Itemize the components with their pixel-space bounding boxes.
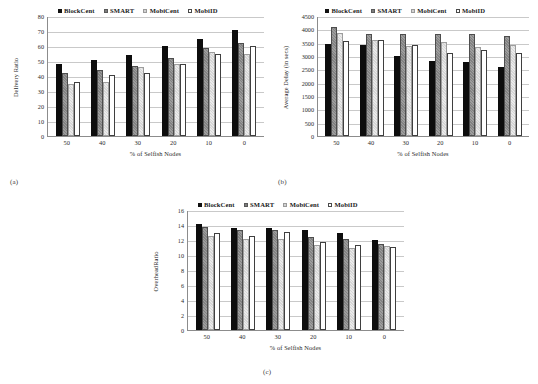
bar-mobiid — [343, 41, 349, 136]
legend-label-mobiid: MobiID — [195, 7, 218, 14]
caption-b: (b) — [278, 178, 287, 186]
legend-item-mobicent: MobiCent — [283, 201, 319, 208]
y-tick-label: 8 — [181, 268, 184, 274]
chart-panel-a: BlockCent SMART MobiCent MobiID Delivery… — [10, 4, 265, 176]
legend-a: BlockCent SMART MobiCent MobiID — [10, 4, 265, 17]
legend-swatch-mobicent-icon — [143, 9, 147, 13]
bar-group — [337, 211, 361, 330]
x-axis-label-b: % of Selfish Nodes — [317, 150, 529, 157]
x-tick-label: 0 — [230, 139, 258, 146]
y-tick-label: 60 — [38, 44, 44, 50]
y-axis-ticks-a: 01020304050607080 — [20, 17, 46, 137]
legend-swatch-blockcent-icon — [58, 9, 62, 13]
y-tick-label: 3500 — [302, 41, 314, 47]
legend-item-mobicent: MobiCent — [411, 7, 447, 14]
bar-mobiid — [249, 236, 255, 331]
x-tick-label: 20 — [159, 139, 187, 146]
legend-label-smart: SMART — [110, 7, 134, 14]
bar-group — [126, 17, 150, 136]
bar-mobiid — [74, 82, 80, 136]
x-tick-label: 50 — [53, 139, 81, 146]
x-tick-label: 10 — [335, 333, 363, 340]
x-tick-label: 20 — [426, 139, 454, 146]
bar-mobiid — [109, 75, 115, 137]
x-axis-label-c: % of Selfish Nodes — [187, 344, 404, 351]
legend-label-mobicent: MobiCent — [417, 7, 446, 14]
x-tick-label: 0 — [496, 139, 524, 146]
y-tick-label: 4500 — [302, 14, 314, 20]
legend-item-blockcent: BlockCent — [198, 201, 235, 208]
legend-swatch-mobiid-icon — [456, 9, 460, 13]
chart-panel-b: BlockCent SMART MobiCent MobiID Average … — [280, 4, 530, 176]
legend-swatch-mobiid-icon — [188, 9, 192, 13]
bar-group — [196, 211, 220, 330]
x-tick-label: 50 — [193, 333, 221, 340]
bar-mobiid — [180, 64, 186, 136]
legend-label-blockcent: BlockCent — [204, 201, 235, 208]
legend-label-mobiid: MobiID — [462, 7, 485, 14]
legend-swatch-blockcent-icon — [325, 9, 329, 13]
plot-area-a: Delivery Ratio 01020304050607080 5040302… — [10, 17, 265, 159]
bar-group — [325, 17, 349, 136]
legend-c: BlockCent SMART MobiCent MobiID — [150, 198, 405, 211]
legend-swatch-smart-icon — [244, 203, 248, 207]
bar-mobiid — [447, 53, 453, 136]
bar-group — [232, 17, 256, 136]
x-tick-label: 50 — [322, 139, 350, 146]
bar-group — [429, 17, 453, 136]
y-tick-label: 2500 — [302, 67, 314, 73]
y-tick-label: 40 — [38, 74, 44, 80]
legend-label-mobicent: MobiCent — [150, 7, 179, 14]
bar-mobiid — [516, 53, 522, 136]
legend-swatch-mobicent-icon — [283, 203, 287, 207]
y-tick-label: 50 — [38, 59, 44, 65]
bar-group — [197, 17, 221, 136]
legend-label-blockcent: BlockCent — [64, 7, 95, 14]
x-axis-ticks-c: 50403020100 — [187, 333, 404, 340]
y-tick-label: 0 — [181, 328, 184, 334]
legend-label-mobicent: MobiCent — [290, 201, 319, 208]
legend-item-mobiid: MobiID — [456, 7, 485, 14]
y-tick-label: 4000 — [302, 27, 314, 33]
x-tick-label: 10 — [461, 139, 489, 146]
y-tick-label: 1000 — [302, 107, 314, 113]
bar-mobiid — [320, 242, 326, 330]
x-tick-label: 20 — [299, 333, 327, 340]
plot-area-b: Average Delay (in secs) 0500100015002000… — [280, 17, 530, 159]
x-tick-label: 30 — [392, 139, 420, 146]
y-tick-label: 500 — [305, 121, 314, 127]
x-axis-ticks-a: 50403020100 — [47, 139, 264, 146]
y-tick-label: 70 — [38, 29, 44, 35]
bar-group — [266, 211, 290, 330]
y-tick-label: 10 — [38, 119, 44, 125]
bar-group — [231, 211, 255, 330]
legend-swatch-smart-icon — [104, 9, 108, 13]
legend-label-smart: SMART — [250, 201, 274, 208]
caption-c: (c) — [263, 368, 271, 376]
bar-mobiid — [214, 233, 220, 331]
y-tick-label: 0 — [311, 134, 314, 140]
axes-a — [47, 17, 264, 137]
bar-mobiid — [390, 247, 396, 330]
bar-group — [463, 17, 487, 136]
legend-item-mobicent: MobiCent — [143, 7, 179, 14]
legend-item-smart: SMART — [244, 201, 275, 208]
x-tick-label: 40 — [357, 139, 385, 146]
axes-c — [187, 211, 404, 331]
x-tick-label: 40 — [88, 139, 116, 146]
bar-group — [394, 17, 418, 136]
plot-area-c: OverheadRatio 0246810121416 50403020100 … — [150, 211, 405, 353]
legend-item-mobiid: MobiID — [328, 201, 357, 208]
legend-b: BlockCent SMART MobiCent MobiID — [280, 4, 530, 17]
y-tick-label: 20 — [38, 104, 44, 110]
y-tick-label: 16 — [178, 208, 184, 214]
bar-groups-a — [48, 17, 264, 136]
legend-item-blockcent: BlockCent — [325, 7, 362, 14]
caption-a: (a) — [10, 178, 18, 186]
bar-mobiid — [355, 245, 361, 331]
y-tick-label: 3000 — [302, 54, 314, 60]
y-tick-label: 6 — [181, 283, 184, 289]
y-tick-label: 30 — [38, 89, 44, 95]
y-tick-label: 1500 — [302, 94, 314, 100]
y-tick-label: 80 — [38, 14, 44, 20]
